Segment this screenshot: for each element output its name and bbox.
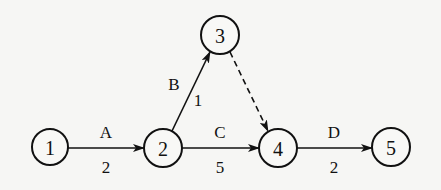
node-5: 5 (372, 128, 410, 166)
edge-2-4-duration: 5 (216, 158, 225, 177)
edge-4-5-activity: D (328, 123, 340, 142)
diagram-canvas: A 2 B 1 C 5 D 2 1 2 3 4 5 (0, 0, 441, 190)
edge-1-2-activity: A (100, 123, 113, 142)
node-2: 2 (144, 129, 182, 167)
node-1: 1 (32, 129, 68, 165)
node-5-label: 5 (386, 137, 396, 159)
node-4: 4 (259, 129, 297, 167)
node-1-label: 1 (45, 137, 55, 159)
edge-2-3-duration: 1 (194, 91, 203, 110)
edge-3-4-dummy (230, 52, 268, 131)
node-2-label: 2 (158, 138, 168, 160)
node-3-label: 3 (215, 25, 225, 47)
edge-2-4-activity: C (214, 123, 225, 142)
edge-1-2-duration: 2 (102, 158, 111, 177)
node-3: 3 (201, 16, 239, 54)
node-4-label: 4 (273, 138, 283, 160)
network-diagram: A 2 B 1 C 5 D 2 1 2 3 4 5 (0, 0, 441, 190)
edge-2-3-activity: B (168, 75, 179, 94)
edge-4-5-duration: 2 (330, 158, 339, 177)
